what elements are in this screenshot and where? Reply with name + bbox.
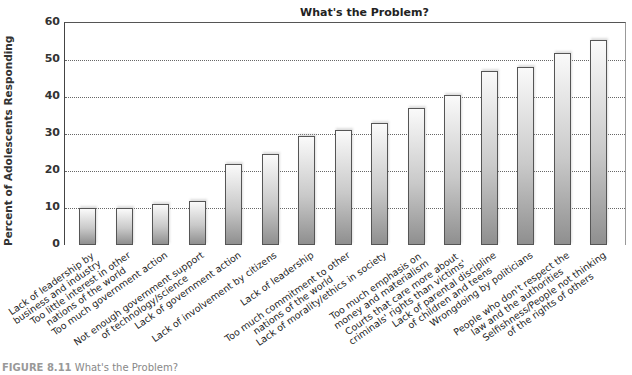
y-tick-label: 60 (36, 15, 60, 28)
plot-area (64, 22, 626, 245)
bar (152, 204, 169, 245)
bar (189, 201, 206, 245)
figure-number: FIGURE 8.11 (2, 362, 72, 373)
gridline (65, 60, 625, 61)
bar (116, 208, 133, 245)
chart-title: What's the Problem? (300, 6, 429, 19)
y-tick-label: 30 (36, 126, 60, 139)
bar (590, 40, 607, 245)
gridline (65, 97, 625, 98)
bar (408, 108, 425, 245)
bar (298, 136, 315, 245)
bar (517, 67, 534, 245)
bar (444, 95, 461, 245)
bar (554, 53, 571, 245)
figure-caption-text: What's the Problem? (75, 362, 178, 373)
figure-caption: FIGURE 8.11 What's the Problem? (2, 362, 178, 373)
bar (371, 123, 388, 245)
bar (335, 130, 352, 245)
y-tick-label: 40 (36, 89, 60, 102)
bar (481, 71, 498, 245)
bar (262, 154, 279, 245)
y-tick-label: 20 (36, 163, 60, 176)
y-tick-label: 50 (36, 52, 60, 65)
y-axis-label: Percent of Adolescents Responding (2, 46, 14, 246)
y-tick-label: 10 (36, 200, 60, 213)
bar (225, 164, 242, 245)
x-axis-labels: Lack of leadership bybusiness and indust… (0, 248, 632, 358)
bar (79, 208, 96, 245)
